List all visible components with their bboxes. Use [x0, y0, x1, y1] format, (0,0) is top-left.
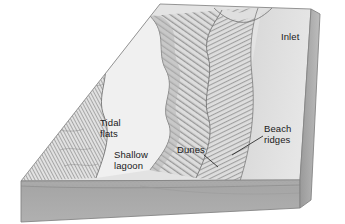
block-top-surface	[21, 4, 311, 181]
block-diagram-figure: Inlet Beach ridges Dunes Tidal flats Sha…	[0, 0, 345, 224]
label-beach-ridges: Beach ridges	[264, 124, 291, 145]
front-face-stipple-band	[21, 181, 300, 186]
label-shallow-lagoon: Shallow lagoon	[114, 150, 148, 171]
block-front-face	[21, 180, 300, 222]
label-tidal-flats: Tidal flats	[100, 118, 121, 139]
label-dunes: Dunes	[177, 145, 205, 156]
label-inlet: Inlet	[281, 32, 299, 43]
